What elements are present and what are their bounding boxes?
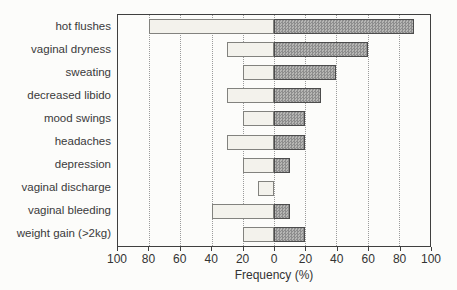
bar-right-depression [274, 158, 290, 173]
bar-right-hot-flushes [274, 19, 414, 34]
tick-mark [148, 247, 149, 251]
category-label: decreased libido [0, 83, 111, 106]
bar-left-vaginal-discharge [258, 181, 274, 196]
bar-left-vaginal-bleeding [212, 204, 274, 219]
category-label: sweating [0, 60, 111, 83]
tick-mark [180, 247, 181, 251]
tick-mark [368, 247, 369, 251]
grid-line [368, 15, 369, 246]
tick-mark [117, 247, 118, 251]
bar-right-vaginal-dryness [274, 42, 368, 57]
category-label: vaginal dryness [0, 37, 111, 60]
tick-label: 60 [362, 252, 375, 266]
x-axis-title: Frequency (%) [235, 268, 314, 282]
tick-label: 20 [299, 252, 312, 266]
category-labels: hot flushesvaginal drynesssweatingdecrea… [0, 14, 111, 247]
tick-mark [400, 247, 401, 251]
bar-right-vaginal-bleeding [274, 204, 290, 219]
tick-mark [243, 247, 244, 251]
category-label: vaginal discharge [0, 176, 111, 199]
tick-label: 40 [205, 252, 218, 266]
bar-left-vaginal-dryness [227, 42, 274, 57]
bar-left-headaches [227, 135, 274, 150]
grid-line [149, 15, 150, 246]
bar-right-headaches [274, 135, 305, 150]
bar-right-sweating [274, 65, 336, 80]
bar-left-depression [243, 158, 274, 173]
tick-label: 60 [173, 252, 186, 266]
tick-label: 80 [142, 252, 155, 266]
tick-mark [337, 247, 338, 251]
bar-left-weight-gain-2kg- [243, 227, 274, 242]
tick-label: 80 [393, 252, 406, 266]
category-label: weight gain (>2kg) [0, 222, 111, 245]
tick-mark [274, 247, 275, 251]
category-label: mood swings [0, 106, 111, 129]
chart-figure: hot flushesvaginal drynesssweatingdecrea… [0, 0, 457, 290]
bar-right-mood-swings [274, 111, 305, 126]
bar-left-hot-flushes [149, 19, 274, 34]
tick-mark [431, 247, 432, 251]
tick-label: 100 [421, 252, 441, 266]
tick-label: 0 [271, 252, 278, 266]
bar-right-weight-gain-2kg- [274, 227, 305, 242]
tick-label: 20 [236, 252, 249, 266]
grid-line [399, 15, 400, 246]
grid-line [180, 15, 181, 246]
category-label: vaginal bleeding [0, 199, 111, 222]
category-label: depression [0, 153, 111, 176]
bar-left-mood-swings [243, 111, 274, 126]
category-label: hot flushes [0, 14, 111, 37]
category-label: headaches [0, 130, 111, 153]
plot-area [117, 14, 431, 247]
tick-mark [211, 247, 212, 251]
tick-label: 40 [330, 252, 343, 266]
bar-left-decreased-libido [227, 88, 274, 103]
bar-left-sweating [243, 65, 274, 80]
bar-right-decreased-libido [274, 88, 321, 103]
tick-label: 100 [107, 252, 127, 266]
tick-mark [305, 247, 306, 251]
x-axis: 10080604020020406080100 [117, 247, 431, 267]
